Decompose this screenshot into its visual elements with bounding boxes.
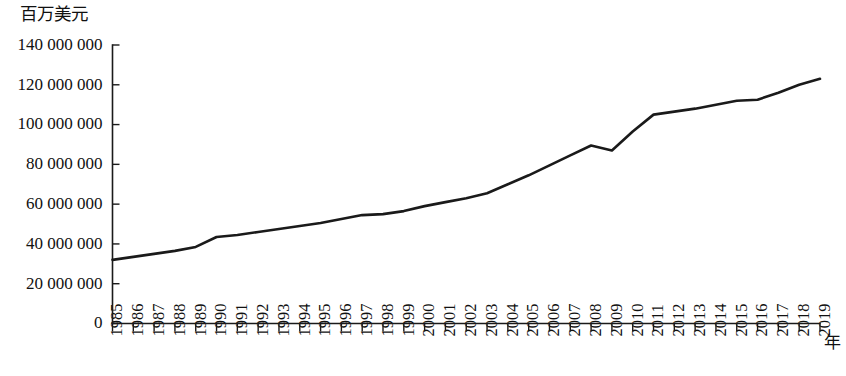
data-series-line xyxy=(113,79,821,260)
x-tick-label: 1995 xyxy=(315,304,334,337)
x-tick-label: 1993 xyxy=(274,304,293,337)
x-tick-label: 2011 xyxy=(648,304,667,336)
x-tick-label: 1997 xyxy=(357,304,376,337)
x-tick-label: 1996 xyxy=(336,304,355,337)
x-tick-label: 1989 xyxy=(191,304,210,337)
x-tick-label-group: 1985198619871988198919901991199219931994… xyxy=(107,304,834,337)
x-tick-label: 2016 xyxy=(752,304,771,337)
line-chart: 百万美元 020 000 00040 000 00060 000 00080 0… xyxy=(0,0,846,376)
y-tick-label: 60 000 000 xyxy=(26,194,103,213)
x-tick-label: 1988 xyxy=(170,304,189,337)
x-tick-label: 2012 xyxy=(669,304,688,337)
x-tick-label: 2003 xyxy=(482,304,501,337)
x-tick-label: 2018 xyxy=(794,304,813,337)
y-tick-label: 120 000 000 xyxy=(18,75,103,94)
x-tick-label: 2009 xyxy=(607,304,626,337)
x-tick-label: 1990 xyxy=(211,304,230,337)
x-axis-title: 年 xyxy=(824,333,841,352)
x-tick-label: 2006 xyxy=(544,304,563,337)
x-tick-label: 1987 xyxy=(149,304,168,337)
chart-canvas: 百万美元 020 000 00040 000 00060 000 00080 0… xyxy=(0,0,846,376)
x-tick-label: 2008 xyxy=(586,304,605,337)
y-tick-label-group: 020 000 00040 000 00060 000 00080 000 00… xyxy=(18,35,103,333)
x-tick-label: 2000 xyxy=(419,304,438,337)
x-tick-label: 2013 xyxy=(690,304,709,337)
y-tick-label: 80 000 000 xyxy=(26,154,103,173)
x-tick-label: 1986 xyxy=(128,304,147,337)
x-tick-label: 2001 xyxy=(440,304,459,337)
y-tick-label: 100 000 000 xyxy=(18,114,103,133)
x-tick-label: 2005 xyxy=(523,304,542,337)
x-tick-label: 2015 xyxy=(732,304,751,337)
x-axis-title-group: 年 xyxy=(824,333,841,352)
x-tick-label: 2019 xyxy=(815,304,834,337)
x-tick-label: 2004 xyxy=(503,304,522,337)
y-tick-label: 40 000 000 xyxy=(26,234,103,253)
x-tick-label: 1999 xyxy=(399,304,418,337)
y-tick-label: 0 xyxy=(94,313,103,332)
y-tick-label: 140 000 000 xyxy=(18,35,103,54)
x-tick-label: 2014 xyxy=(711,304,730,337)
y-axis-title-group: 百万美元 xyxy=(20,4,88,24)
x-tick-label: 2002 xyxy=(461,304,480,337)
x-tick-label: 1991 xyxy=(232,304,251,337)
x-tick-label: 1992 xyxy=(253,304,272,337)
x-tick-label: 1994 xyxy=(295,304,314,337)
x-tick-label: 2007 xyxy=(565,304,584,337)
x-tick-label: 1998 xyxy=(378,304,397,337)
y-tick-mark-group xyxy=(113,45,120,324)
y-tick-label: 20 000 000 xyxy=(26,274,103,293)
y-axis-title: 百万美元 xyxy=(20,4,88,24)
x-tick-label: 2010 xyxy=(628,304,647,337)
x-tick-label: 1985 xyxy=(107,304,126,337)
x-tick-label: 2017 xyxy=(773,304,792,337)
